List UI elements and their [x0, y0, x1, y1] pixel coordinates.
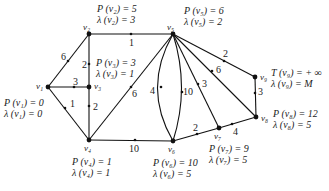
arrow-mark-icon [130, 33, 133, 36]
weight-v5-v6-left: 4 [150, 86, 155, 96]
annotation-v5-lambda: λ (v₅) = 2 [184, 16, 224, 27]
weight-v5-v7: 3 [202, 79, 207, 89]
arrow-mark-icon [88, 63, 91, 66]
node-v3 [87, 85, 92, 90]
edge-v5-v6-right [173, 34, 182, 141]
node-label-v6: v₆ [168, 144, 175, 154]
annotation-v4: P (v₄) = 1 λ (v₄) = 1 [72, 156, 112, 178]
node-v4 [87, 138, 92, 143]
node-v7 [217, 126, 222, 131]
arrow-mark-icon [64, 107, 67, 110]
weight-v8-v9: 3 [258, 87, 263, 97]
annotation-v9: T (v₉) = + ∞ λ (v₉) = M [271, 67, 322, 89]
annotation-v7-p: P (v₇) = 9 [209, 143, 249, 154]
annotation-v1-lambda: λ (v₁) = 0 [4, 108, 44, 119]
node-v1 [46, 85, 51, 90]
annotation-v8-p: P (v₈) = 12 [273, 108, 318, 119]
node-label-v9: v₉ [260, 72, 267, 82]
annotation-v3-p: P (v₃) = 3 [96, 57, 136, 68]
weight-v3-v4: 2 [93, 102, 98, 112]
node-label-v7: v₇ [214, 131, 221, 141]
node-label-v3: v₃ [94, 81, 101, 91]
node-v6 [171, 139, 176, 144]
arrow-mark-icon [88, 105, 91, 108]
annotation-v3: P (v₃) = 3 λ (v₃) = 1 [96, 57, 136, 79]
node-v2 [87, 32, 92, 37]
node-label-v1: v₁ [36, 81, 43, 91]
weight-v2-v3: 2 [82, 60, 87, 70]
annotation-v8-lambda: λ (v₈) = 5 [273, 119, 318, 130]
edge-v1-v4 [48, 87, 89, 140]
annotation-v7: P (v₇) = 9 λ (v₇) = 5 [209, 143, 249, 165]
annotation-v5: P (v₅) = 6 λ (v₅) = 2 [184, 5, 224, 27]
annotation-v2: P (v₂) = 5 λ (v₂) = 3 [97, 3, 137, 25]
annotation-v1-p: P (v₁) = 0 [4, 97, 44, 108]
node-label-v2: v₂ [83, 22, 90, 32]
annotation-v1: P (v₁) = 0 λ (v₁) = 0 [4, 97, 44, 119]
node-label-v4: v₄ [84, 143, 91, 153]
annotation-v4-p: P (v₄) = 1 [72, 156, 112, 167]
arrow-mark-icon [211, 70, 214, 73]
arrow-mark-icon [254, 92, 257, 95]
weight-v2-v5: 1 [129, 38, 134, 48]
edge-v5-v9 [173, 34, 255, 77]
annotation-v8: P (v₈) = 12 λ (v₈) = 5 [273, 108, 318, 130]
annotation-v6-p: P (v₆) = 10 [153, 157, 198, 168]
annotation-v9-lambda: λ (v₉) = M [271, 78, 322, 89]
annotation-v9-t: T (v₉) = + ∞ [271, 67, 322, 78]
annotation-v7-lambda: λ (v₇) = 5 [209, 154, 249, 165]
annotation-v6: P (v₆) = 10 λ (v₆) = 5 [153, 157, 198, 179]
weight-v4-v6: 10 [129, 144, 139, 154]
weight-v4-v5: 6 [132, 89, 137, 99]
weight-v5-v6-right: 10 [183, 87, 193, 97]
edge-v5-v8 [173, 34, 256, 117]
arrow-mark-icon [223, 60, 226, 63]
arrow-mark-icon [231, 123, 234, 126]
weight-v1-v2: 6 [61, 52, 66, 62]
node-label-v5: v₅ [167, 22, 174, 32]
weight-v6-v7: 2 [193, 123, 198, 133]
weight-v1-v4: 1 [70, 99, 75, 109]
weight-v1-v3: 3 [73, 77, 78, 87]
node-label-v8: v₈ [261, 113, 268, 123]
arrow-mark-icon [160, 86, 163, 89]
annotation-v2-p: P (v₂) = 5 [97, 3, 137, 14]
node-v8 [254, 115, 259, 120]
weight-v5-v8: 6 [216, 65, 221, 75]
annotation-v2-lambda: λ (v₂) = 3 [97, 14, 137, 25]
arrow-mark-icon [197, 83, 200, 86]
edge-v4-v6 [89, 140, 173, 141]
annotation-v4-lambda: λ (v₄) = 1 [72, 167, 112, 178]
annotation-v5-p: P (v₅) = 6 [184, 5, 224, 16]
node-v5 [171, 32, 176, 37]
arrow-mark-icon [67, 60, 70, 63]
weight-v7-v8: 4 [233, 127, 238, 137]
weight-v5-v9: 2 [223, 49, 228, 59]
arrow-mark-icon [134, 139, 137, 142]
node-v9 [253, 75, 258, 80]
arrow-mark-icon [196, 133, 199, 136]
edge-v8-v9 [255, 77, 256, 117]
annotation-v6-lambda: λ (v₆) = 5 [153, 168, 198, 179]
annotation-v3-lambda: λ (v₃) = 1 [96, 68, 136, 79]
